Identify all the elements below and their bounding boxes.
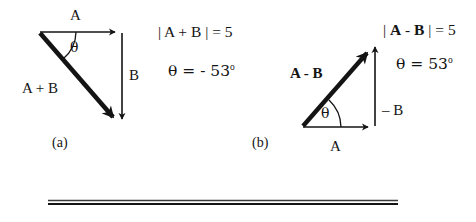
panel-b-magnitude-result: | A - B | = 5 <box>383 22 456 38</box>
panel-b-magnitude-prefix: | <box>383 21 390 38</box>
panel-b-caption: (b) <box>252 136 268 150</box>
panel-b-vector-a-minus-b-label: A - B <box>290 66 323 81</box>
panel-b-angle-result-degree: o <box>448 55 453 65</box>
panel-b-angle-label: θ <box>321 106 329 120</box>
horizontal-double-rule <box>48 201 398 205</box>
panel-a-angle-result-base: θ = - 53 <box>168 62 230 80</box>
panel-a-vector-a-plus-b-label: A + B <box>22 81 58 96</box>
panel-b-vector-a-minus-b-line <box>303 53 367 126</box>
panel-b-angle-result-base: θ = 53 <box>396 55 448 73</box>
panel-a-angle-result-degree: o <box>230 62 235 72</box>
panel-a-magnitude-result: | A + B | = 5 <box>158 24 233 40</box>
panel-b-angle-result: θ = 53o <box>396 56 453 73</box>
panel-a-angle-result: θ = - 53o <box>168 63 235 80</box>
vector-figure: A B A + B θ | A + B | = 5 θ = - 53o (a) … <box>0 0 476 222</box>
panel-b-magnitude-vector-a: A <box>390 21 401 38</box>
panel-b-graphics <box>303 47 375 127</box>
panel-a-angle-label: θ <box>70 40 78 54</box>
panel-a-vector-b-label: B <box>129 68 139 83</box>
panel-a-caption: (a) <box>52 136 68 150</box>
panel-a-graphics <box>40 32 122 119</box>
panel-b-angle-arc <box>329 100 341 127</box>
panel-b-vector-minus-b-label: – B <box>382 103 403 118</box>
panel-b-magnitude-suffix: | = 5 <box>424 21 455 38</box>
panel-b-magnitude-vector-b: B <box>414 21 424 38</box>
panel-b-magnitude-operator: - <box>401 21 414 38</box>
panel-b-vector-a-label: A <box>330 139 341 154</box>
panel-a-vector-a-label: A <box>70 8 81 23</box>
